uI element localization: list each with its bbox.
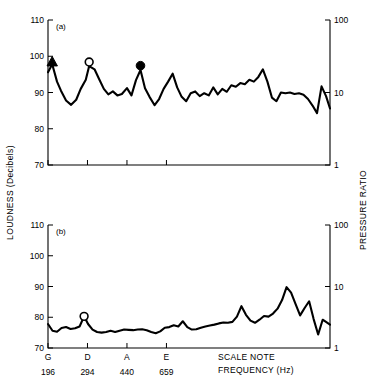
x-note-label-D: D bbox=[84, 352, 90, 362]
panel-b-axis-frame bbox=[48, 225, 330, 348]
y-right-tick-label-1: 1 bbox=[334, 343, 339, 353]
x-axis-note-labels: GDAE bbox=[45, 352, 170, 362]
acoustic-loudness-chart: 708090100110 110100 (a) 708090100110 110… bbox=[0, 0, 373, 386]
y-tick-label-70: 70 bbox=[35, 343, 45, 353]
x-note-label-G: G bbox=[45, 352, 52, 362]
panel-a: 708090100110 110100 (a) bbox=[30, 15, 349, 170]
marker-circle-open-D bbox=[80, 312, 88, 320]
y-tick-label-70: 70 bbox=[35, 160, 45, 170]
y-right-tick-label-10: 10 bbox=[334, 282, 344, 292]
figure-container: 708090100110 110100 (a) 708090100110 110… bbox=[0, 0, 373, 386]
panel-b-right-ticks bbox=[325, 225, 330, 348]
panel-a-bottom-ticks bbox=[48, 160, 166, 165]
x-caption-frequency: FREQUENCY (Hz) bbox=[218, 365, 294, 375]
y-right-tick-label-100: 100 bbox=[334, 220, 348, 230]
x-note-label-E: E bbox=[164, 352, 170, 362]
marker-circle-open-D bbox=[85, 58, 93, 66]
x-frequency-label-294: 294 bbox=[80, 367, 94, 377]
panel-a-label: (a) bbox=[56, 22, 66, 31]
marker-triangle-filled-G bbox=[47, 56, 57, 65]
y-right-tick-label-10: 10 bbox=[334, 88, 344, 98]
y-tick-label-90: 90 bbox=[35, 282, 45, 292]
y-tick-label-110: 110 bbox=[30, 15, 44, 25]
y-tick-label-100: 100 bbox=[30, 251, 44, 261]
panel-b-markers bbox=[80, 312, 88, 320]
panel-a-data-line bbox=[48, 64, 330, 113]
x-axis-frequency-labels: 196294440659 bbox=[41, 367, 174, 377]
panel-b-right-ticklabels: 110100 bbox=[334, 220, 348, 353]
panel-b-bottom-ticks bbox=[48, 343, 166, 348]
panel-a-right-ticklabels: 110100 bbox=[334, 15, 348, 170]
left-axis-title: LOUDNESS (Decibels) bbox=[5, 145, 15, 240]
y-right-tick-label-100: 100 bbox=[334, 15, 348, 25]
y-tick-label-110: 110 bbox=[30, 220, 44, 230]
panel-b-data-line bbox=[48, 287, 330, 334]
y-tick-label-80: 80 bbox=[35, 124, 45, 134]
y-right-tick-label-1: 1 bbox=[334, 160, 339, 170]
right-axis-title: PRESSURE RATIO bbox=[358, 170, 368, 250]
y-tick-label-80: 80 bbox=[35, 312, 45, 322]
y-tick-label-100: 100 bbox=[30, 51, 44, 61]
x-frequency-label-659: 659 bbox=[159, 367, 173, 377]
x-frequency-label-440: 440 bbox=[120, 367, 134, 377]
panel-a-left-ticklabels: 708090100110 bbox=[30, 15, 44, 170]
panel-a-markers bbox=[47, 56, 145, 69]
panel-b: 708090100110 110100 (b) bbox=[30, 220, 349, 353]
marker-circle-filled-A bbox=[136, 61, 145, 70]
panel-a-right-ticks bbox=[325, 20, 330, 165]
panel-b-left-ticklabels: 708090100110 bbox=[30, 220, 44, 353]
x-note-label-A: A bbox=[124, 352, 130, 362]
x-caption-scale-note: SCALE NOTE bbox=[218, 352, 275, 362]
panel-a-left-ticks bbox=[48, 20, 53, 165]
x-frequency-label-196: 196 bbox=[41, 367, 55, 377]
y-tick-label-90: 90 bbox=[35, 88, 45, 98]
panel-b-label: (b) bbox=[56, 227, 66, 236]
